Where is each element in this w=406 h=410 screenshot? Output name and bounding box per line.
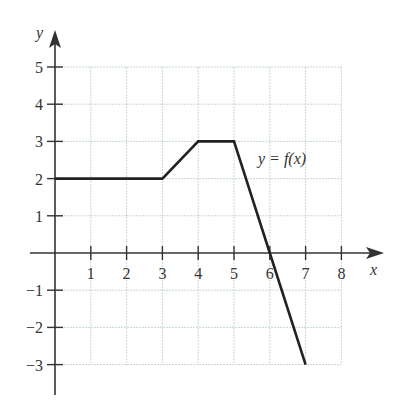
axes: [30, 30, 384, 395]
y-axis-label: y: [34, 24, 44, 42]
x-tick-label: 8: [337, 265, 345, 282]
y-tick-label: 5: [35, 59, 43, 76]
x-tick-label: 1: [87, 265, 95, 282]
curve-label: y = f(x): [256, 150, 306, 168]
x-tick-label: 4: [194, 265, 202, 282]
y-tick-label: 2: [35, 171, 43, 188]
y-tick-label: −3: [26, 357, 43, 374]
y-tick-label: −1: [26, 282, 43, 299]
y-tick-label: 1: [35, 208, 43, 225]
y-tick-label: 3: [35, 133, 43, 150]
grid-lines: [55, 67, 341, 365]
x-tick-label: 7: [302, 265, 310, 282]
y-tick-label: 4: [35, 96, 43, 113]
x-axis-label: x: [369, 261, 377, 278]
tick-labels: 12345678−3−2−112345: [26, 59, 345, 374]
x-tick-label: 5: [230, 265, 238, 282]
x-tick-label: 2: [123, 265, 131, 282]
function-graph: 12345678−3−2−112345 x y y = f(x): [0, 0, 406, 410]
y-tick-label: −2: [26, 319, 43, 336]
x-tick-label: 3: [158, 265, 166, 282]
x-tick-label: 6: [266, 265, 274, 282]
